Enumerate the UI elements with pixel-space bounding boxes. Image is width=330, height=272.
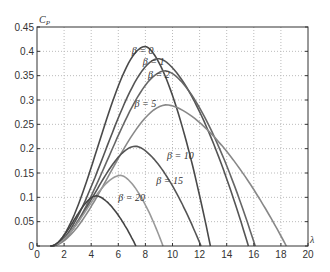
curve-label: β = 2 xyxy=(147,69,170,80)
y-tick-label: 0.4 xyxy=(20,46,34,57)
curve-label: β = 0 xyxy=(131,45,154,56)
y-axis-label: CP xyxy=(39,14,51,27)
y-tick-label: 0.05 xyxy=(15,216,35,227)
cp-lambda-chart: 0246810121416182000.050.10.150.20.250.30… xyxy=(0,0,330,272)
y-tick-label: 0.25 xyxy=(15,119,35,130)
x-axis-label: λ xyxy=(309,234,315,245)
x-tick-label: 12 xyxy=(194,249,206,260)
x-tick-label: 18 xyxy=(275,249,287,260)
y-tick-label: 0.1 xyxy=(20,192,34,203)
y-tick-label: 0.35 xyxy=(15,70,35,81)
x-tick-label: 6 xyxy=(116,249,122,260)
x-tick-label: 10 xyxy=(167,249,179,260)
x-tick-label: 4 xyxy=(88,249,94,260)
x-tick-label: 14 xyxy=(221,249,233,260)
x-tick-label: 16 xyxy=(248,249,260,260)
y-tick-label: 0.2 xyxy=(20,143,34,154)
y-tick-label: 0.3 xyxy=(20,95,34,106)
curve-label: β = 1 xyxy=(142,56,165,67)
curve-label: β = 15 xyxy=(155,175,183,186)
x-tick-label: 0 xyxy=(34,249,40,260)
curve-label: β = 10 xyxy=(166,150,194,161)
x-tick-label: 20 xyxy=(302,249,314,260)
curve-β0 xyxy=(51,47,211,247)
y-tick-label: 0 xyxy=(28,241,34,252)
y-tick-label: 0.15 xyxy=(15,168,35,179)
x-tick-label: 8 xyxy=(143,249,149,260)
x-tick-label: 2 xyxy=(61,249,67,260)
y-tick-label: 0.45 xyxy=(15,22,35,33)
curve-label: β = 20 xyxy=(117,192,145,203)
curve-label: β = 5 xyxy=(134,98,157,109)
curve-β15 xyxy=(51,175,164,246)
